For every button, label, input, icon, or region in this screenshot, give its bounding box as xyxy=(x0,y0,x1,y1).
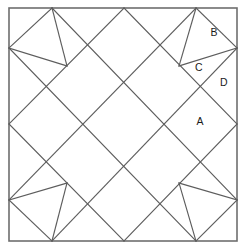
region-label-b: B xyxy=(210,26,217,38)
quilt-block-diagram: B C D A xyxy=(0,0,245,251)
region-label-a: A xyxy=(196,115,203,127)
region-label-c: C xyxy=(195,61,203,73)
figure-container: B C D A xyxy=(0,0,245,251)
region-label-d: D xyxy=(220,76,228,88)
